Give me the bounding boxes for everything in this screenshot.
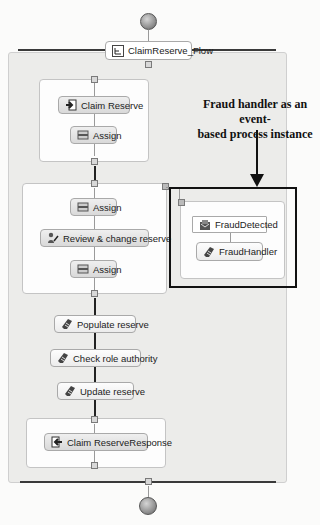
scope-in-port bbox=[91, 76, 98, 83]
node-label: Claim ReserveResponse bbox=[67, 437, 172, 448]
connector bbox=[94, 188, 95, 198]
human-task-icon bbox=[47, 232, 59, 244]
annotation-text: Fraud handler as an event- based process… bbox=[190, 97, 320, 142]
assign-node[interactable]: Assign bbox=[70, 198, 117, 216]
connector bbox=[94, 83, 95, 96]
assign-icon bbox=[77, 201, 89, 213]
node-label: Assign bbox=[93, 264, 122, 275]
review-change-reserve-task[interactable]: Review & change reserve bbox=[40, 229, 149, 247]
connector bbox=[94, 166, 96, 180]
connector bbox=[94, 298, 96, 315]
scope-out-port bbox=[91, 462, 98, 469]
reply-icon bbox=[51, 436, 63, 448]
populate-reserve-invoke[interactable]: Populate reserve bbox=[54, 315, 136, 333]
node-label: Check role authority bbox=[73, 353, 157, 364]
connector bbox=[94, 247, 95, 260]
flow-label: ClaimReserve_Flow bbox=[128, 45, 213, 56]
scope-in-port bbox=[91, 416, 98, 423]
connector bbox=[94, 367, 96, 382]
connector bbox=[148, 30, 149, 41]
start-event[interactable] bbox=[140, 13, 157, 30]
flow-icon bbox=[112, 45, 124, 57]
check-role-authority-invoke[interactable]: Check role authority bbox=[50, 349, 141, 367]
annotation-arrow-shaft bbox=[256, 130, 258, 175]
annotation-line-2: based process instance bbox=[190, 127, 320, 142]
receive-icon bbox=[65, 99, 77, 111]
connector bbox=[94, 144, 95, 156]
connector bbox=[94, 333, 96, 349]
node-label: Assign bbox=[93, 202, 122, 213]
node-label: Populate reserve bbox=[77, 319, 149, 330]
node-label: Claim Reserve bbox=[81, 100, 143, 111]
node-label: Assign bbox=[93, 130, 122, 141]
invoke-icon bbox=[64, 385, 76, 397]
end-event[interactable] bbox=[139, 497, 157, 515]
annotation-arrow-head bbox=[250, 174, 264, 187]
invoke-icon bbox=[61, 318, 73, 330]
scope-out-port bbox=[91, 158, 98, 165]
annotation-highlight-box bbox=[169, 187, 297, 288]
node-label: Review & change reserve bbox=[63, 233, 171, 244]
scope-out-port bbox=[91, 290, 98, 297]
node-label: Update reserve bbox=[80, 386, 145, 397]
connector bbox=[94, 216, 95, 229]
invoke-icon bbox=[57, 352, 69, 364]
connector bbox=[94, 424, 95, 433]
assign-icon bbox=[77, 129, 89, 141]
flow-out-port bbox=[145, 478, 152, 485]
connector bbox=[94, 278, 95, 290]
assign-icon bbox=[77, 263, 89, 275]
annotation-line-1: Fraud handler as an event- bbox=[190, 97, 320, 127]
connector bbox=[148, 486, 149, 497]
update-reserve-invoke[interactable]: Update reserve bbox=[57, 382, 134, 400]
connector bbox=[94, 400, 96, 416]
scope-in-port bbox=[91, 180, 98, 187]
assign-node[interactable]: Assign bbox=[70, 126, 117, 144]
assign-node[interactable]: Assign bbox=[70, 260, 117, 278]
flow-out-port bbox=[145, 61, 152, 68]
claim-reserve-response-reply[interactable]: Claim ReserveResponse bbox=[44, 433, 148, 451]
claim-reserve-receive[interactable]: Claim Reserve bbox=[58, 96, 130, 114]
flow-node[interactable]: ClaimReserve_Flow bbox=[105, 41, 192, 60]
connector bbox=[94, 114, 95, 126]
